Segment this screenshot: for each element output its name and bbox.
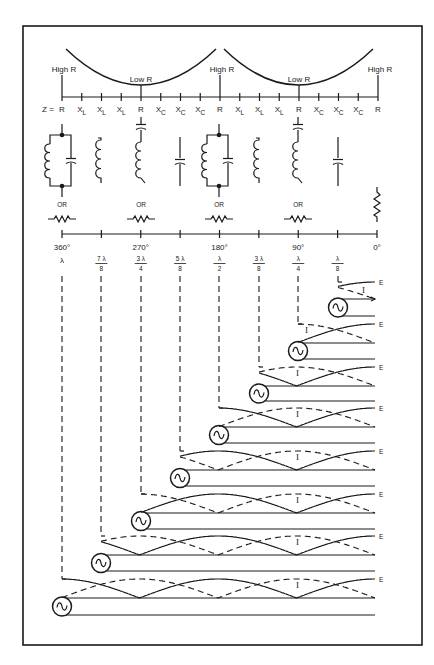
length-numerator: 3 λ (136, 255, 145, 262)
resistor-icon (374, 187, 380, 222)
z-axis-label: XL (275, 105, 284, 116)
z-axis-label: XC (175, 105, 185, 116)
low-r-label: Low R (288, 75, 311, 84)
voltage-label: E (379, 364, 384, 371)
current-label: I (296, 368, 299, 378)
length-numerator: λ (336, 255, 340, 262)
or-label: OR (214, 201, 224, 208)
voltage-label: E (379, 576, 384, 583)
z-axis-label: XL (77, 105, 86, 116)
degree-label: 180° (211, 243, 228, 252)
resistor-icon (284, 216, 312, 222)
current-standing-wave (141, 494, 375, 513)
line-row-5λ-over-8: EI (171, 276, 385, 488)
current-label: I (362, 285, 365, 295)
current-label: I (296, 452, 299, 462)
current-standing-wave (101, 536, 375, 555)
resistor-icon (127, 216, 155, 222)
parallel-lc-circuit-icon (45, 124, 76, 197)
length-denominator: 4 (139, 265, 143, 272)
voltage-standing-wave (101, 536, 375, 555)
z-axis-label: XL (97, 105, 106, 116)
inductor-icon (254, 138, 259, 183)
voltage-standing-wave (62, 579, 375, 598)
voltage-label: E (379, 448, 384, 455)
length-denominator: 8 (336, 265, 340, 272)
z-axis-label: R (59, 105, 65, 114)
length-numerator: λ (218, 255, 222, 262)
outer-frame (23, 26, 422, 645)
line-row-3λ-over-8: EI (250, 276, 385, 403)
resistor-icon (48, 216, 76, 222)
current-label: I (296, 580, 299, 590)
voltage-standing-wave (141, 494, 375, 513)
low-r-label: Low R (130, 75, 153, 84)
z-axis-label: R (375, 105, 381, 114)
z-axis-label: XL (235, 105, 244, 116)
z-axis-label: XL (117, 105, 126, 116)
or-label: OR (293, 201, 303, 208)
z-axis-label: XC (353, 105, 363, 116)
voltage-standing-wave (338, 282, 375, 287)
series-lc-circuit-icon (293, 117, 303, 183)
length-label: λ (60, 256, 64, 265)
z-equals-label: Z = (42, 105, 54, 114)
current-label: I (305, 325, 308, 335)
degree-label: 360° (54, 243, 71, 252)
voltage-label: E (379, 533, 384, 540)
voltage-label: E (379, 405, 384, 412)
degree-label: 90° (292, 243, 304, 252)
z-axis-label: XC (314, 105, 324, 116)
z-axis-label: R (217, 105, 223, 114)
length-denominator: 8 (178, 265, 182, 272)
resistor-icon (205, 216, 233, 222)
equivalent-circuits: OROROROR (45, 117, 380, 222)
line-row-λ-over-8: EI (329, 276, 385, 317)
current-label: I (296, 537, 299, 547)
z-axis-label: R (138, 105, 144, 114)
capacitor-icon (175, 137, 185, 186)
z-axis-label: XL (255, 105, 264, 116)
current-standing-wave (338, 288, 375, 300)
degree-label: 270° (132, 243, 149, 252)
standing-wave-rows: EIEIEIEIEIEIEIEI (53, 276, 385, 616)
voltage-label: E (379, 321, 384, 328)
voltage-standing-wave (298, 324, 375, 342)
length-numerator: λ (297, 255, 301, 262)
transmission-line-diagram: RXLXLXLRXCXCXCRXLXLXLRXCXCXCRZ =High RHi… (0, 0, 434, 665)
current-standing-wave (298, 324, 375, 343)
voltage-label: E (379, 279, 384, 286)
current-standing-wave (259, 367, 375, 386)
high-r-label: High R (368, 65, 393, 74)
impedance-axis: RXLXLXLRXCXCXCRXLXLXLRXCXCXCRZ =High RHi… (42, 65, 392, 116)
degree-axis: 360°270°180°90°0°λ7 λ83 λ45 λ8λ23 λ8λ4λ8 (54, 230, 381, 272)
or-label: OR (136, 201, 146, 208)
current-label: I (296, 409, 299, 419)
voltage-label: E (379, 491, 384, 498)
current-standing-wave (62, 579, 375, 598)
length-numerator: 5 λ (176, 255, 185, 262)
series-lc-circuit-icon (136, 117, 146, 183)
z-axis-label: XC (156, 105, 166, 116)
high-r-label: High R (210, 65, 235, 74)
z-axis-label: XC (195, 105, 205, 116)
degree-label: 0° (373, 243, 381, 252)
z-axis-label: XC (333, 105, 343, 116)
current-label: I (296, 495, 299, 505)
length-denominator: 4 (296, 265, 300, 272)
length-denominator: 8 (100, 265, 104, 272)
high-r-label: High R (52, 65, 77, 74)
capacitor-icon (333, 137, 343, 186)
diagram-frame: RXLXLXLRXCXCXCRXLXLXLRXCXCXCRZ =High RHi… (0, 0, 434, 665)
length-numerator: 7 λ (97, 255, 106, 262)
or-label: OR (57, 201, 67, 208)
line-row-λ-over-4: EI (289, 276, 385, 361)
voltage-standing-wave (259, 367, 375, 386)
inductor-icon (96, 138, 101, 183)
length-numerator: 3 λ (255, 255, 264, 262)
z-axis-label: R (296, 105, 302, 114)
length-denominator: 8 (257, 265, 261, 272)
length-denominator: 2 (218, 265, 222, 272)
parallel-lc-circuit-icon (202, 124, 233, 197)
